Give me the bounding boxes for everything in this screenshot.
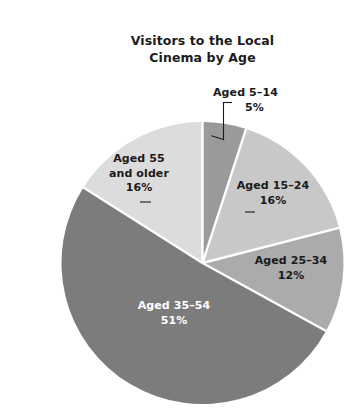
pie-label-aged-55-and-older-name-1: Aged 55 <box>94 152 184 167</box>
pie-label-aged-5-14-value: 5% <box>213 101 296 116</box>
pie-label-aged-5-14-name: Aged 5–14 <box>213 86 343 101</box>
pie-label-aged-55-and-older-value: 16% <box>94 181 184 196</box>
pie-chart-graphic <box>40 16 348 410</box>
pie-label-aged-15-24-name: Aged 15–24 <box>220 179 326 194</box>
pie-chart-figure: Visitors to the Local Cinema by Age <box>40 16 348 410</box>
pie-label-aged-35-54-name: Aged 35–54 <box>118 299 230 314</box>
pie-label-aged-35-54: Aged 35–54 51% <box>118 299 230 328</box>
pie-label-aged-25-34: Aged 25–34 12% <box>238 254 344 283</box>
pie-label-aged-15-24: Aged 15–24 16% <box>220 179 326 208</box>
pie-label-aged-55-and-older: Aged 55 and older 16% <box>94 152 184 196</box>
pie-label-aged-35-54-value: 51% <box>118 314 230 329</box>
pie-label-aged-5-14: Aged 5–14 5% <box>213 86 343 115</box>
pie-label-aged-25-34-name: Aged 25–34 <box>238 254 344 269</box>
pie-label-aged-25-34-value: 12% <box>238 269 344 284</box>
pie-label-aged-55-and-older-name-2: and older <box>94 167 184 182</box>
pie-label-aged-15-24-value: 16% <box>220 194 326 209</box>
